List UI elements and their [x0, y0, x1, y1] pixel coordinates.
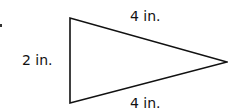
triangle: [70, 18, 227, 103]
bottom-side-label: 4 in.: [130, 96, 161, 110]
top-side-label: 4 in.: [130, 9, 161, 23]
left-side-label: 2 in.: [22, 53, 53, 67]
diagram: 2 in. 4 in. 4 in.: [0, 0, 228, 110]
